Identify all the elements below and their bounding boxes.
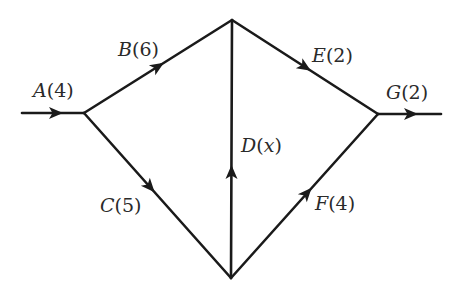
edge-label-f: F(4) — [314, 192, 355, 214]
edge-label-e: E(2) — [311, 44, 353, 66]
edge-b — [84, 20, 232, 113]
edge-label-d: D(x) — [240, 134, 282, 156]
edge-label-b: B(6) — [117, 38, 159, 60]
edge-label-a: A(4) — [31, 79, 74, 101]
edge-label-g: G(2) — [386, 81, 428, 103]
edge-label-c: C(5) — [100, 194, 141, 216]
edge-g — [378, 108, 441, 120]
edge-e — [232, 20, 378, 114]
edge-d — [226, 20, 238, 278]
network-diagram: A(4) B(6) C(5) D(x) E(2) F(4) G(2) — [0, 0, 459, 285]
edge-a — [22, 107, 84, 119]
arrow-up-right-icon — [149, 58, 167, 76]
